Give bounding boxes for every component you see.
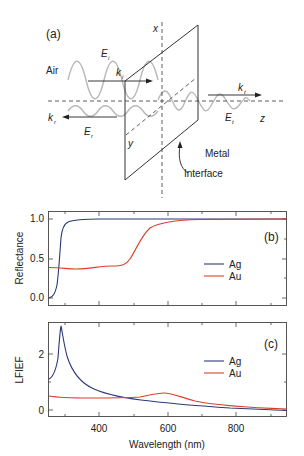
legend-ag-label-c: Ag	[229, 356, 241, 367]
panel-a-diagram: (a) Air Metal Interface x y z	[46, 22, 284, 198]
panel-b-ytick-2: 0.5	[30, 253, 44, 264]
legend-ag-label-b: Ag	[229, 259, 241, 270]
xtick-600: 600	[160, 423, 177, 434]
ki-subscript: i	[122, 74, 124, 80]
legend-au-label-b: Au	[229, 271, 241, 282]
x-axis-label: x	[152, 23, 159, 34]
panel-b-chart: 1.0 0.5 0.0 Reflectance (b) Ag Au	[14, 212, 287, 306]
panel-b-ytick-1: 1.0	[30, 213, 44, 224]
kr-arrowhead-icon	[62, 115, 69, 120]
Ei-label: E	[101, 48, 108, 59]
incident-wave	[68, 61, 158, 99]
panel-c-chart: 2 0 LFIEF (c) 400 600 800 Wavelength (nm…	[14, 323, 287, 451]
panel-c-au-curve	[49, 393, 287, 409]
reflected-wave	[68, 106, 158, 117]
Et-subscript: t	[232, 119, 234, 125]
air-label: Air	[46, 65, 59, 76]
panel-b-au-curve	[49, 219, 287, 269]
panel-a-label: (a)	[46, 27, 61, 41]
panel-b-label: (b)	[264, 230, 279, 244]
metal-label: Metal	[205, 148, 229, 159]
panel-c-ytick-2: 0	[38, 405, 44, 416]
panel-b-ag-curve	[49, 219, 287, 298]
z-axis-label: z	[259, 113, 265, 124]
Er-subscript: r	[91, 133, 94, 139]
panel-b-ylabel: Reflectance	[14, 231, 25, 284]
interface-pointer-arrowhead-icon	[178, 141, 183, 148]
interface-plane	[125, 25, 198, 180]
interface-label: Interface	[184, 168, 223, 179]
panel-b-ytick-3: 0.0	[30, 292, 44, 303]
Er-label: E	[84, 126, 91, 137]
kt-subscript: t	[244, 89, 246, 95]
panel-b-frame	[49, 212, 287, 306]
xtick-400: 400	[91, 423, 108, 434]
panel-c-ytick-1: 2	[38, 349, 44, 360]
Et-label: E	[225, 112, 232, 123]
x-axis-title: Wavelength (nm)	[129, 439, 205, 450]
panel-c-label: (c)	[264, 337, 278, 351]
Ei-subscript: i	[108, 55, 110, 61]
kt-arrowhead-icon	[255, 93, 262, 98]
panel-c-ylabel: LFIEF	[14, 356, 25, 383]
kr-subscript: r	[54, 119, 57, 125]
ki-arrowhead-icon	[146, 79, 153, 84]
y-axis-label: y	[127, 138, 134, 149]
xtick-800: 800	[228, 423, 245, 434]
panel-b-xticks	[49, 212, 287, 306]
legend-au-label-c: Au	[229, 368, 241, 379]
figure-canvas: (a) Air Metal Interface x y z	[0, 0, 304, 456]
